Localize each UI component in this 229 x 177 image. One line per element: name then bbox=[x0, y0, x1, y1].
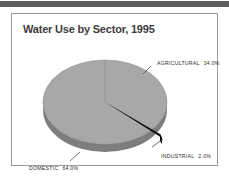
pie-chart-svg bbox=[12, 14, 217, 165]
pie-label-domestic-value: 64.0% bbox=[62, 165, 78, 171]
pie-slice-industrial-side bbox=[160, 134, 162, 144]
pie-label-agricultural-name: AGRICULTURAL bbox=[157, 60, 200, 66]
pie-label-agricultural: AGRICULTURAL34.0% bbox=[157, 60, 220, 66]
pie-label-industrial: INDUSTRIAL2.0% bbox=[161, 153, 211, 159]
header-rule bbox=[0, 1, 229, 7]
pie-label-industrial-value: 2.0% bbox=[198, 153, 211, 159]
leader-line-domestic bbox=[70, 152, 80, 161]
pie-label-domestic: DOMESTIC64.0% bbox=[29, 165, 78, 171]
chart-figure: Water Use by Sector, 1995 bbox=[0, 0, 229, 177]
pie-chart: AGRICULTURAL34.0% INDUSTRIAL2.0% DOMESTI… bbox=[12, 14, 217, 165]
chart-panel: Water Use by Sector, 1995 bbox=[11, 13, 218, 166]
pie-label-industrial-name: INDUSTRIAL bbox=[161, 153, 194, 159]
pie-label-domestic-name: DOMESTIC bbox=[29, 165, 58, 171]
pie-label-agricultural-value: 34.0% bbox=[204, 60, 220, 66]
